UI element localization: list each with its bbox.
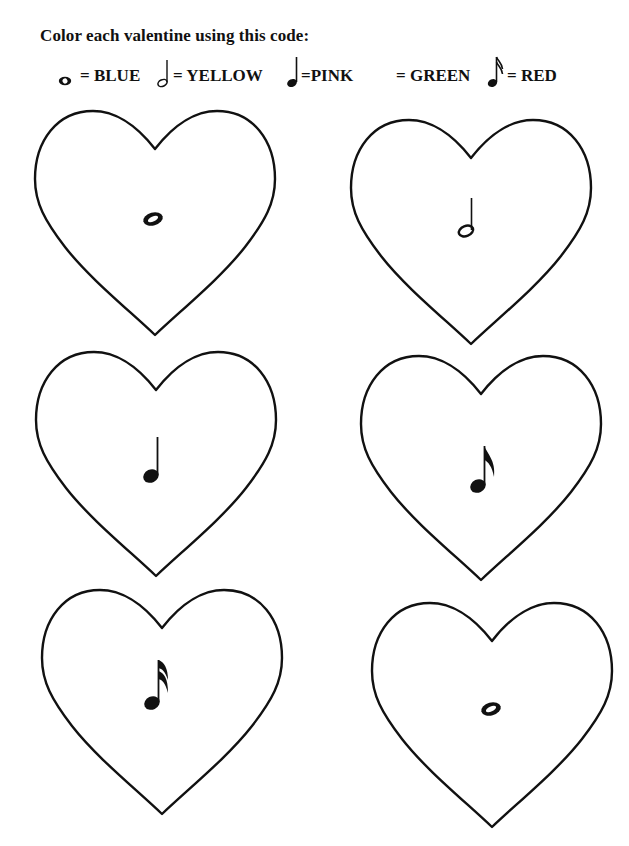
heart-row1-left[interactable] — [35, 111, 275, 335]
heart-row2-right[interactable] — [361, 356, 601, 580]
heart-outline — [42, 590, 282, 814]
heart-row2-left[interactable] — [36, 352, 276, 576]
heart-row3-right[interactable] — [372, 603, 612, 827]
heart-outline — [36, 352, 276, 576]
valentine-hearts — [0, 0, 629, 846]
heart-outline — [361, 356, 601, 580]
heart-row3-left[interactable] — [42, 590, 282, 814]
heart-row1-right[interactable] — [351, 120, 591, 344]
